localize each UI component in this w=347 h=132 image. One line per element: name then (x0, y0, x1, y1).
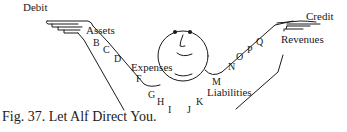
letter-k: K (196, 97, 203, 107)
letter-o: O (236, 52, 243, 62)
right-hand-icon (277, 21, 320, 31)
figure-caption: Fig. 37. Let Alf Direct You. (2, 109, 156, 125)
letter-h: H (157, 97, 164, 107)
letter-b: B (93, 38, 100, 48)
letter-n: N (228, 62, 235, 72)
letter-c: C (103, 45, 110, 55)
letter-g: G (148, 90, 155, 100)
label-debit: Debit (23, 2, 47, 13)
letter-f: F (136, 74, 142, 84)
letter-j: J (187, 105, 191, 115)
letter-q: Q (256, 37, 263, 47)
letter-d: D (114, 54, 121, 64)
label-revenues: Revenues (281, 34, 324, 45)
label-assets: Assets (86, 25, 115, 36)
label-liabilities: Liabilities (207, 87, 252, 98)
alf-diagram: Debit Assets Expenses Credit Revenues Li… (0, 0, 347, 132)
label-credit: Credit (306, 11, 334, 22)
letter-i: I (168, 105, 171, 115)
smiling-face-icon (158, 30, 208, 81)
letter-m: M (212, 77, 221, 87)
label-expenses: Expenses (131, 62, 173, 73)
letter-p: P (247, 45, 253, 55)
